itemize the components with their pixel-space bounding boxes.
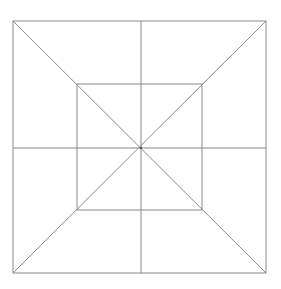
geometry-diagram xyxy=(0,0,281,289)
center-point xyxy=(140,147,142,149)
